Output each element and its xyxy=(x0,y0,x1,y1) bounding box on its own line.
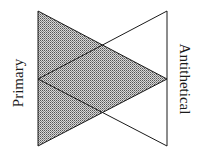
antithetical-label: Antithetical xyxy=(177,44,193,115)
primary-label: Primary xyxy=(10,58,26,107)
primary-triangle xyxy=(38,11,167,146)
gyres-diagram: Primary Antithetical xyxy=(0,0,205,157)
